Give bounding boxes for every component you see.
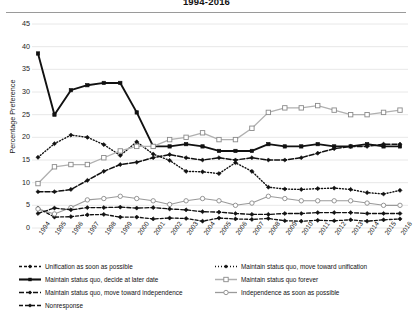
data-point-nonresponse bbox=[36, 211, 40, 215]
data-point-independence-asap bbox=[381, 203, 385, 207]
data-point-msq-forever bbox=[102, 156, 106, 160]
data-point-msq-toward-unification bbox=[381, 192, 385, 196]
legend-key-independence-asap bbox=[214, 288, 238, 297]
data-point-msq-toward-independence bbox=[102, 169, 106, 173]
chart-title: 1994-2016 bbox=[0, 0, 413, 8]
data-point-nonresponse bbox=[200, 210, 204, 214]
data-point-msq-toward-unification bbox=[36, 155, 40, 159]
data-point-msq-toward-independence bbox=[135, 160, 139, 164]
data-point-unification-asap bbox=[135, 215, 139, 219]
data-point-unification-asap bbox=[69, 215, 73, 219]
series-line-msq-decide-later bbox=[38, 53, 400, 150]
data-point-unification-asap bbox=[217, 216, 221, 220]
data-point-nonresponse bbox=[332, 210, 336, 214]
data-point-unification-asap bbox=[151, 217, 155, 221]
legend-label: Maintain status quo, decide at later dat… bbox=[45, 275, 158, 284]
data-point-unification-asap bbox=[316, 218, 320, 222]
data-point-nonresponse bbox=[349, 210, 353, 214]
data-point-independence-asap bbox=[233, 203, 237, 207]
data-point-unification-asap bbox=[102, 212, 106, 216]
plot-area: Percentage Preference 051015202530354045 bbox=[0, 16, 413, 232]
y-tick-label: 40 bbox=[12, 43, 30, 50]
y-tick-label: 25 bbox=[12, 111, 30, 118]
data-point-independence-asap bbox=[36, 207, 40, 211]
y-tick-label: 35 bbox=[12, 65, 30, 72]
data-point-msq-toward-unification bbox=[69, 133, 73, 137]
data-point-msq-toward-independence bbox=[250, 156, 254, 160]
y-tick-label: 5 bbox=[12, 201, 30, 208]
legend-key-unification-asap bbox=[18, 262, 42, 271]
y-tick-label: 30 bbox=[12, 88, 30, 95]
data-point-msq-toward-independence bbox=[168, 152, 172, 156]
y-axis-ticks: 051015202530354045 bbox=[10, 16, 30, 232]
data-point-msq-decide-later bbox=[267, 142, 270, 145]
data-point-msq-forever bbox=[250, 126, 254, 130]
data-point-nonresponse bbox=[398, 211, 402, 215]
data-point-msq-decide-later bbox=[316, 142, 319, 145]
data-point-msq-decide-later bbox=[300, 145, 303, 148]
data-point-nonresponse bbox=[217, 210, 221, 214]
legend-item-nonresponse[interactable]: Nonresponse bbox=[18, 301, 83, 310]
data-point-unification-asap bbox=[168, 216, 172, 220]
data-point-msq-forever bbox=[381, 110, 385, 114]
data-point-msq-decide-later bbox=[168, 145, 171, 148]
data-point-independence-asap bbox=[200, 196, 204, 200]
legend-item-msq-toward-unification[interactable]: Maintain status quo, move toward unifica… bbox=[214, 262, 367, 271]
data-point-msq-toward-independence bbox=[36, 190, 40, 194]
data-point-msq-decide-later bbox=[135, 111, 138, 114]
data-point-msq-toward-independence bbox=[118, 162, 122, 166]
data-point-nonresponse bbox=[250, 212, 254, 216]
data-point-nonresponse bbox=[381, 211, 385, 215]
data-point-independence-asap bbox=[184, 199, 188, 203]
data-point-msq-toward-unification bbox=[200, 170, 204, 174]
data-point-msq-toward-unification bbox=[365, 191, 369, 195]
data-point-msq-decide-later bbox=[217, 149, 220, 152]
data-point-nonresponse bbox=[135, 206, 139, 210]
data-point-msq-forever bbox=[118, 149, 122, 153]
data-point-msq-forever bbox=[200, 131, 204, 135]
data-point-msq-forever bbox=[52, 165, 56, 169]
data-point-msq-toward-independence bbox=[52, 190, 56, 194]
x-axis-ticks: 1994199519961997199819992000200120022003… bbox=[32, 232, 408, 260]
data-point-nonresponse bbox=[85, 206, 89, 210]
data-point-nonresponse bbox=[365, 211, 369, 215]
data-point-msq-toward-independence bbox=[151, 156, 155, 160]
data-point-msq-toward-unification bbox=[299, 187, 303, 191]
data-point-unification-asap bbox=[85, 213, 89, 217]
data-point-msq-toward-independence bbox=[283, 158, 287, 162]
y-tick-label: 15 bbox=[12, 156, 30, 163]
legend-item-msq-toward-independence[interactable]: Maintain status quo, move toward indepen… bbox=[18, 288, 183, 297]
data-point-unification-asap bbox=[118, 215, 122, 219]
data-point-unification-asap bbox=[398, 217, 402, 221]
data-point-nonresponse bbox=[266, 212, 270, 216]
legend-label: Maintain status quo, move toward unifica… bbox=[241, 262, 367, 271]
data-point-msq-toward-independence bbox=[184, 156, 188, 160]
data-point-msq-forever bbox=[283, 106, 287, 110]
data-point-msq-decide-later bbox=[250, 149, 253, 152]
legend-key-msq-toward-independence bbox=[18, 288, 42, 297]
data-point-msq-decide-later bbox=[234, 149, 237, 152]
legend-item-independence-asap[interactable]: Independence as soon as possible bbox=[214, 288, 339, 297]
legend-key-msq-forever bbox=[214, 275, 238, 284]
data-point-msq-decide-later bbox=[201, 145, 204, 148]
data-point-independence-asap bbox=[299, 199, 303, 203]
data-point-msq-toward-independence bbox=[217, 156, 221, 160]
legend-item-msq-forever[interactable]: Maintain status quo forever bbox=[214, 275, 318, 284]
data-point-msq-decide-later bbox=[53, 113, 56, 116]
data-point-nonresponse bbox=[316, 210, 320, 214]
legend-label: Maintain status quo, move toward indepen… bbox=[45, 288, 183, 297]
data-point-unification-asap bbox=[365, 219, 369, 223]
data-point-msq-toward-unification bbox=[398, 188, 402, 192]
data-point-msq-forever bbox=[85, 162, 89, 166]
data-point-msq-decide-later bbox=[86, 84, 89, 87]
data-point-nonresponse bbox=[283, 211, 287, 215]
title-divider bbox=[6, 12, 406, 13]
data-point-independence-asap bbox=[398, 203, 402, 207]
data-point-nonresponse bbox=[52, 206, 56, 210]
data-point-nonresponse bbox=[102, 206, 106, 210]
data-point-nonresponse bbox=[299, 211, 303, 215]
data-point-msq-decide-later bbox=[69, 88, 72, 91]
data-point-independence-asap bbox=[250, 201, 254, 205]
legend-item-msq-decide-later[interactable]: Maintain status quo, decide at later dat… bbox=[18, 275, 158, 284]
legend-item-unification-asap[interactable]: Unification as soon as possible bbox=[18, 262, 133, 271]
